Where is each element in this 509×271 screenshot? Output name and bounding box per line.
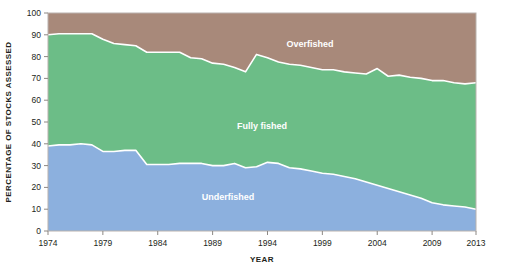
y-tick-label: 90: [32, 30, 42, 40]
x-tick-label: 1994: [258, 238, 277, 248]
y-tick-label: 70: [32, 73, 42, 83]
x-tick-label: 1979: [93, 238, 112, 248]
x-tick-label: 1974: [39, 238, 58, 248]
x-tick-label: 2013: [467, 238, 486, 248]
y-tick-label: 10: [32, 204, 42, 214]
y-axis: 0102030405060708090100: [27, 8, 48, 236]
y-tick-label: 0: [36, 226, 41, 236]
x-tick-label: 1989: [203, 238, 222, 248]
fish-stocks-area-chart: 0102030405060708090100 19741979198419891…: [0, 0, 509, 271]
series-label-overfished: Overfished: [286, 39, 333, 49]
x-axis: 197419791984198919941999200420092013: [39, 231, 486, 248]
series-label-underfished: Underfished: [202, 192, 255, 202]
x-tick-label: 2004: [368, 238, 387, 248]
y-axis-title: PERCENTAGE OF STOCKS ASSESSED: [4, 42, 13, 203]
y-tick-label: 80: [32, 52, 42, 62]
y-tick-label: 20: [32, 182, 42, 192]
x-tick-label: 2009: [423, 238, 442, 248]
y-tick-label: 40: [32, 139, 42, 149]
x-tick-label: 1984: [148, 238, 167, 248]
chart-canvas: 0102030405060708090100 19741979198419891…: [0, 0, 509, 271]
x-axis-title: YEAR: [250, 255, 274, 264]
series-label-fully-fished: Fully fished: [237, 121, 287, 131]
y-tick-label: 100: [27, 8, 41, 18]
y-tick-label: 60: [32, 95, 42, 105]
x-tick-label: 1999: [313, 238, 332, 248]
y-tick-label: 30: [32, 161, 42, 171]
y-tick-label: 50: [32, 117, 42, 127]
